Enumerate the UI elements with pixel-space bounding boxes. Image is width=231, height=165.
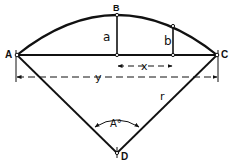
point-c-marker (215, 53, 219, 57)
label-c: C (221, 49, 228, 60)
point-d-marker (115, 151, 118, 154)
label-d: D (121, 151, 128, 162)
radius-ad (17, 55, 117, 153)
var-b: b (164, 34, 172, 48)
radius-cd (117, 55, 217, 153)
segment-diagram: A B C D a b x y r A° (0, 0, 231, 165)
var-a: a (103, 30, 110, 44)
var-y: y (95, 71, 102, 84)
point-bpt-marker (171, 24, 174, 27)
var-x: x (141, 60, 148, 73)
point-a-marker (15, 53, 19, 57)
point-b-marker (115, 13, 118, 16)
label-a: A (5, 49, 12, 60)
point-b-foot (115, 53, 118, 56)
var-r: r (160, 90, 165, 103)
label-b: B (113, 3, 120, 13)
point-bpt-foot (171, 53, 174, 56)
var-angle: A° (110, 118, 122, 129)
